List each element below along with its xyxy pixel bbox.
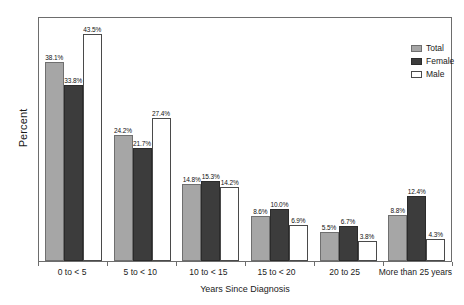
bar-value-label: 14.2%	[221, 179, 239, 186]
bar-male[interactable]	[220, 187, 239, 261]
bar-value-label: 4.3%	[428, 231, 442, 238]
bar-total[interactable]	[320, 232, 339, 261]
bar-group: 24.2%21.7%27.4%	[108, 18, 177, 261]
legend-label-female: Female	[426, 56, 454, 66]
bar-slot-total: 8.8%	[388, 18, 407, 261]
bar-slot-male: 3.8%	[358, 18, 377, 261]
bar-value-label: 12.4%	[408, 188, 426, 195]
bar-slot-male: 14.2%	[220, 18, 239, 261]
bar-female[interactable]	[201, 181, 220, 261]
bar-value-label: 27.4%	[152, 110, 170, 117]
bar-value-label: 33.8%	[64, 77, 82, 84]
bar-total[interactable]	[388, 215, 407, 261]
bar-value-label: 8.6%	[253, 208, 267, 215]
bar-group: 5.5%6.7%3.8%	[314, 18, 383, 261]
x-axis-tick-icon	[383, 262, 384, 266]
legend-item-female: Female	[411, 56, 454, 66]
bar-value-label: 5.5%	[322, 224, 336, 231]
bar-group: 14.8%15.3%14.2%	[176, 18, 245, 261]
bar-slot-male: 27.4%	[152, 18, 171, 261]
legend-item-male: Male	[411, 69, 454, 79]
bar-value-label: 3.8%	[360, 233, 374, 240]
x-axis-labels: 0 to < 55 to < 1010 to < 1515 to < 2020 …	[38, 267, 452, 277]
legend-item-total: Total	[411, 43, 454, 53]
bar-slot-total: 24.2%	[114, 18, 133, 261]
plot-frame: 38.1%33.8%43.5%24.2%21.7%27.4%14.8%15.3%…	[38, 17, 452, 262]
x-axis-tick-label: 5 to < 10	[106, 267, 174, 277]
bar-total[interactable]	[182, 184, 201, 261]
x-axis-tick-icon	[245, 262, 246, 266]
bar-male[interactable]	[83, 34, 102, 261]
x-axis-title: Years Since Diagnosis	[38, 284, 452, 294]
x-axis-tick-label: 10 to < 15	[174, 267, 242, 277]
plot-area: 38.1%33.8%43.5%24.2%21.7%27.4%14.8%15.3%…	[39, 18, 451, 261]
x-axis-tick-icon	[38, 262, 39, 266]
x-axis-tick-label: More than 25 years	[379, 267, 452, 277]
bar-total[interactable]	[114, 135, 133, 261]
bar-female[interactable]	[339, 226, 358, 261]
bar-male[interactable]	[152, 118, 171, 261]
bar-female[interactable]	[64, 85, 83, 261]
bar-male[interactable]	[358, 241, 377, 261]
bar-group: 38.1%33.8%43.5%	[39, 18, 108, 261]
legend-label-male: Male	[426, 69, 444, 79]
bar-female[interactable]	[270, 209, 289, 261]
bar-slot-total: 5.5%	[320, 18, 339, 261]
bar-slot-female: 6.7%	[339, 18, 358, 261]
legend: Total Female Male	[411, 43, 454, 79]
legend-swatch-total-icon	[411, 45, 422, 52]
bar-female[interactable]	[407, 196, 426, 261]
x-axis-tick-label: 20 to 25	[311, 267, 379, 277]
bar-value-label: 10.0%	[270, 201, 288, 208]
bar-male[interactable]	[426, 239, 445, 261]
bar-total[interactable]	[251, 216, 270, 261]
bar-chart: Percent 38.1%33.8%43.5%24.2%21.7%27.4%14…	[0, 0, 464, 305]
x-axis-tick-icon	[176, 262, 177, 266]
bar-slot-female: 15.3%	[201, 18, 220, 261]
bar-value-label: 43.5%	[83, 26, 101, 33]
bar-value-label: 21.7%	[133, 140, 151, 147]
x-axis-tick-icon	[452, 262, 453, 266]
bar-male[interactable]	[289, 225, 308, 261]
bar-value-label: 15.3%	[202, 173, 220, 180]
bar-value-label: 38.1%	[45, 54, 63, 61]
bar-value-label: 24.2%	[114, 127, 132, 134]
bar-slot-total: 14.8%	[182, 18, 201, 261]
bar-slot-male: 43.5%	[83, 18, 102, 261]
legend-swatch-male-icon	[411, 71, 422, 78]
bar-female[interactable]	[133, 148, 152, 261]
bar-value-label: 8.8%	[390, 207, 404, 214]
bar-slot-female: 33.8%	[64, 18, 83, 261]
bar-slot-female: 21.7%	[133, 18, 152, 261]
bar-value-label: 6.9%	[291, 217, 305, 224]
bar-slot-female: 10.0%	[270, 18, 289, 261]
bar-total[interactable]	[45, 62, 64, 261]
bar-group: 8.6%10.0%6.9%	[245, 18, 314, 261]
y-axis-title: Percent	[17, 83, 29, 173]
legend-label-total: Total	[426, 43, 444, 53]
bar-value-label: 14.8%	[183, 176, 201, 183]
legend-swatch-female-icon	[411, 58, 422, 65]
bar-slot-male: 6.9%	[289, 18, 308, 261]
bar-value-label: 6.7%	[341, 218, 355, 225]
x-axis-tick-label: 15 to < 20	[242, 267, 310, 277]
x-axis-tick-label: 0 to < 5	[38, 267, 106, 277]
x-axis-tick-icon	[107, 262, 108, 266]
bar-slot-total: 38.1%	[45, 18, 64, 261]
bar-slot-total: 8.6%	[251, 18, 270, 261]
x-axis-tick-icon	[314, 262, 315, 266]
